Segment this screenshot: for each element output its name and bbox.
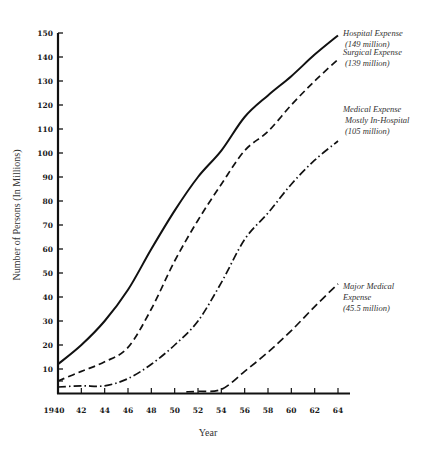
x-tick-label: 54 xyxy=(216,406,226,415)
x-tick-label: 46 xyxy=(123,406,133,415)
major-medical-line xyxy=(186,284,338,392)
surgical-expense-label: Surgical Expense(139 million) xyxy=(343,47,402,68)
x-tick-label: 50 xyxy=(169,406,179,415)
annotation-line: (139 million) xyxy=(345,58,390,68)
x-tick-label: 44 xyxy=(99,406,109,415)
annotation-line: Medical Expense xyxy=(342,104,402,114)
line-chart: 102030405060708090100110120130140150 194… xyxy=(0,0,432,457)
y-tick-label: 140 xyxy=(37,53,53,62)
medical-expense-label: Medical ExpenseMostly In-Hospital(105 mi… xyxy=(342,104,410,136)
y-tick-label: 90 xyxy=(43,173,53,182)
y-tick-label: 110 xyxy=(37,125,53,134)
y-axis-ticks: 102030405060708090100110120130140150 xyxy=(37,29,63,381)
hospital-expense-label: Hospital Expense(149 million) xyxy=(342,28,403,49)
x-tick-label: 60 xyxy=(286,406,296,415)
annotation-line: Expense xyxy=(342,292,372,302)
x-tick-label: 58 xyxy=(263,406,273,415)
y-tick-label: 120 xyxy=(37,101,53,110)
x-axis-title: Year xyxy=(199,427,218,438)
y-tick-label: 30 xyxy=(43,317,53,326)
y-tick-label: 20 xyxy=(43,341,53,350)
y-tick-label: 150 xyxy=(37,29,53,38)
surgical-expense-line xyxy=(58,59,338,381)
x-tick-label: 62 xyxy=(309,406,319,415)
annotation-line: Major Medical xyxy=(342,281,395,291)
series-annotations: Hospital Expense(149 million)Surgical Ex… xyxy=(342,28,410,313)
y-tick-label: 10 xyxy=(43,365,53,374)
annotation-line: (45.5 million) xyxy=(343,303,390,313)
major-medical-label: Major MedicalExpense(45.5 million) xyxy=(342,281,395,313)
hospital-expense-line xyxy=(58,35,338,364)
x-tick-label: 52 xyxy=(193,406,203,415)
x-tick-label: 48 xyxy=(146,406,156,415)
annotation-line: Hospital Expense xyxy=(342,28,403,38)
series-lines xyxy=(58,35,338,391)
x-tick-label: 56 xyxy=(239,406,249,415)
y-tick-label: 70 xyxy=(43,221,53,230)
y-tick-label: 40 xyxy=(43,293,53,302)
y-tick-label: 50 xyxy=(43,269,53,278)
x-tick-label: 1940 xyxy=(44,406,65,415)
annotation-line: Mostly In-Hospital xyxy=(344,115,410,125)
y-axis-title: Number of Persons (In Millions) xyxy=(11,149,23,280)
annotation-line: (105 million) xyxy=(345,126,390,136)
annotation-line: Surgical Expense xyxy=(343,47,402,57)
x-tick-label: 42 xyxy=(76,406,86,415)
y-tick-label: 130 xyxy=(37,77,53,86)
y-tick-label: 100 xyxy=(37,149,53,158)
x-tick-label: 64 xyxy=(333,406,343,415)
y-tick-label: 60 xyxy=(43,245,53,254)
y-tick-label: 80 xyxy=(43,197,53,206)
